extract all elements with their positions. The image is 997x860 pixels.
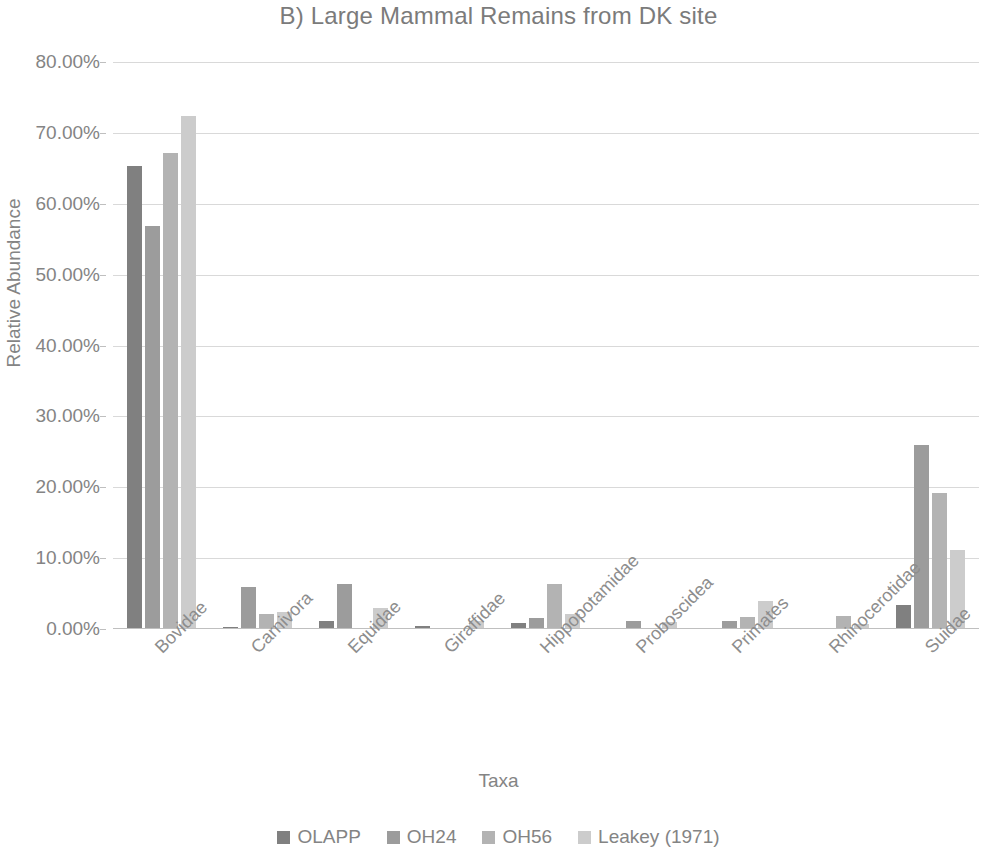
bar-chart: B) Large Mammal Remains from DK site Rel…: [0, 0, 997, 860]
y-axis-tick-mark: [100, 204, 106, 205]
chart-legend: OLAPPOH24OH56Leakey (1971): [0, 826, 997, 848]
y-axis-tick-label: 80.00%: [36, 51, 100, 73]
legend-item: OH24: [387, 826, 457, 848]
bar: [163, 153, 178, 629]
y-axis-tick-label: 0.00%: [46, 618, 100, 640]
y-axis-tick-label: 20.00%: [36, 476, 100, 498]
y-axis-tick-mark: [100, 346, 106, 347]
bar-group: [883, 62, 979, 629]
bar-group: [498, 62, 594, 629]
y-axis-tick-mark: [100, 487, 106, 488]
y-axis-tick-label: 40.00%: [36, 335, 100, 357]
bar-group: [305, 62, 401, 629]
bar-group: [787, 62, 883, 629]
legend-item: OLAPP: [277, 826, 360, 848]
bar: [932, 493, 947, 629]
bar: [896, 605, 911, 629]
legend-swatch: [482, 831, 495, 844]
y-axis-tick-mark: [100, 275, 106, 276]
legend-label: Leakey (1971): [598, 826, 719, 848]
bar: [127, 166, 142, 629]
bar-group: [690, 62, 786, 629]
legend-label: OH24: [407, 826, 457, 848]
y-axis-tick-mark: [100, 558, 106, 559]
legend-item: OH56: [482, 826, 552, 848]
bar-group: [209, 62, 305, 629]
legend-label: OLAPP: [297, 826, 360, 848]
legend-swatch: [387, 831, 400, 844]
legend-swatch: [277, 831, 290, 844]
bar-group: [113, 62, 209, 629]
bar: [241, 587, 256, 629]
y-axis-tick-label: 30.00%: [36, 405, 100, 427]
bar: [145, 226, 160, 629]
bar-group: [402, 62, 498, 629]
y-axis-tick-label: 60.00%: [36, 193, 100, 215]
bar: [181, 116, 196, 629]
bar-group: [594, 62, 690, 629]
legend-swatch: [578, 831, 591, 844]
legend-label: OH56: [502, 826, 552, 848]
y-axis-tick-mark: [100, 629, 106, 630]
y-axis-tick-labels: 80.00%70.00%60.00%50.00%40.00%30.00%20.0…: [0, 62, 100, 629]
y-axis-tick-mark: [100, 133, 106, 134]
plot-area: [113, 62, 979, 629]
x-axis-title: Taxa: [0, 770, 997, 792]
y-axis-tick-label: 70.00%: [36, 122, 100, 144]
y-axis-tick-label: 50.00%: [36, 264, 100, 286]
legend-item: Leakey (1971): [578, 826, 719, 848]
y-axis-tick-label: 10.00%: [36, 547, 100, 569]
y-axis-tick-mark: [100, 416, 106, 417]
bar: [337, 584, 352, 629]
bar: [914, 445, 929, 629]
chart-title: B) Large Mammal Remains from DK site: [0, 2, 997, 30]
y-axis-tick-mark: [100, 62, 106, 63]
